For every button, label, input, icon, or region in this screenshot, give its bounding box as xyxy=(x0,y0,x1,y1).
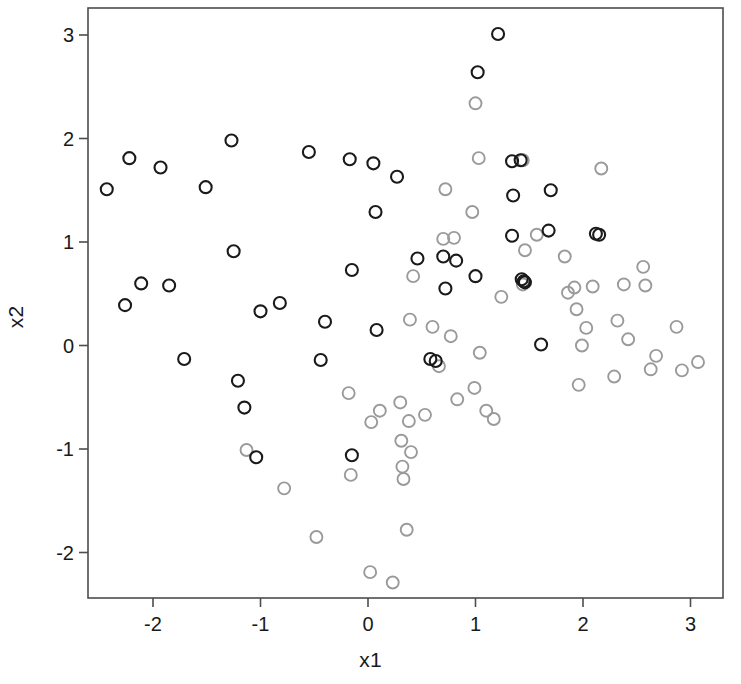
data-point xyxy=(315,354,327,366)
data-point xyxy=(622,333,634,345)
data-point xyxy=(374,405,386,417)
data-point xyxy=(543,225,555,237)
data-point xyxy=(346,264,358,276)
data-point xyxy=(346,449,358,461)
data-point xyxy=(571,303,583,315)
data-point xyxy=(427,321,439,333)
data-point xyxy=(403,415,415,427)
data-point xyxy=(404,314,416,326)
data-point xyxy=(387,577,399,589)
data-point xyxy=(451,393,463,405)
data-point xyxy=(439,183,451,195)
data-point xyxy=(394,396,406,408)
data-point xyxy=(303,146,315,158)
data-point xyxy=(450,255,462,267)
data-point xyxy=(278,482,290,494)
data-point xyxy=(155,161,167,173)
data-point xyxy=(274,297,286,309)
data-point xyxy=(238,402,250,414)
y-axis-title: x2 xyxy=(4,287,28,347)
data-point xyxy=(367,157,379,169)
data-point xyxy=(611,315,623,327)
plot-border xyxy=(88,8,723,598)
data-point xyxy=(671,321,683,333)
data-point xyxy=(559,250,571,262)
y-tick-label: 3 xyxy=(36,24,74,47)
plot-canvas xyxy=(0,0,741,684)
data-point xyxy=(200,181,212,193)
data-point xyxy=(405,446,417,458)
data-point xyxy=(650,350,662,362)
data-point xyxy=(319,316,331,328)
data-point xyxy=(232,375,244,387)
data-point xyxy=(119,299,131,311)
data-point xyxy=(573,379,585,391)
data-point xyxy=(255,305,267,317)
y-tick-label: -2 xyxy=(36,541,74,564)
y-tick-label: 0 xyxy=(36,334,74,357)
data-point xyxy=(101,183,113,195)
data-point xyxy=(506,230,518,242)
data-point xyxy=(507,189,519,201)
data-point xyxy=(473,152,485,164)
data-point xyxy=(419,409,431,421)
data-point xyxy=(310,531,322,543)
data-point xyxy=(470,97,482,109)
data-point xyxy=(343,387,355,399)
y-tick-label: 2 xyxy=(36,127,74,150)
data-point xyxy=(519,244,531,256)
data-point xyxy=(495,291,507,303)
data-point xyxy=(396,461,408,473)
data-point xyxy=(364,566,376,578)
data-point xyxy=(488,413,500,425)
x-tick-label: 0 xyxy=(362,613,373,636)
data-point xyxy=(163,279,175,291)
x-tick-label: -2 xyxy=(144,613,162,636)
data-point xyxy=(411,253,423,265)
x-tick-label: -1 xyxy=(252,613,270,636)
data-point xyxy=(407,270,419,282)
data-point xyxy=(587,281,599,293)
scatter-points-class-light xyxy=(241,97,704,588)
x-axis-title: x1 xyxy=(0,648,741,672)
data-point xyxy=(345,469,357,481)
data-point xyxy=(371,324,383,336)
data-point xyxy=(545,184,557,196)
x-tick-label: 2 xyxy=(577,613,588,636)
data-point xyxy=(123,152,135,164)
data-point xyxy=(639,279,651,291)
data-point xyxy=(135,277,147,289)
x-tick-label: 3 xyxy=(685,613,696,636)
data-point xyxy=(395,435,407,447)
data-point xyxy=(531,229,543,241)
data-point xyxy=(178,353,190,365)
data-point xyxy=(250,451,262,463)
data-point xyxy=(618,278,630,290)
y-tick-label: 1 xyxy=(36,231,74,254)
data-point xyxy=(391,171,403,183)
data-point xyxy=(535,338,547,350)
data-point xyxy=(474,347,486,359)
data-point xyxy=(397,473,409,485)
axis-ticks xyxy=(79,35,691,607)
data-point xyxy=(637,261,649,273)
data-point xyxy=(692,356,704,368)
data-point xyxy=(445,330,457,342)
data-point xyxy=(225,135,237,147)
y-tick-label: -1 xyxy=(36,438,74,461)
data-point xyxy=(344,153,356,165)
data-point xyxy=(365,416,377,428)
data-point xyxy=(608,371,620,383)
data-point xyxy=(370,206,382,218)
plot-frame xyxy=(88,8,723,598)
data-point xyxy=(437,250,449,262)
scatter-plot-figure: -2-10123-2-10123 x1 x2 xyxy=(0,0,741,684)
data-point xyxy=(676,364,688,376)
data-point xyxy=(439,283,451,295)
data-point xyxy=(580,322,592,334)
data-point xyxy=(468,382,480,394)
x-tick-label: 1 xyxy=(470,613,481,636)
data-point xyxy=(401,524,413,536)
data-point xyxy=(645,363,657,375)
data-point xyxy=(228,245,240,257)
